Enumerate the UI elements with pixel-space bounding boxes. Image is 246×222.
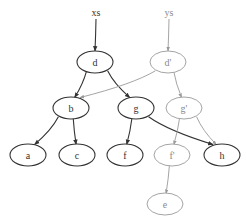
node-d: d bbox=[77, 51, 113, 73]
node-label: d bbox=[93, 57, 98, 68]
edge-b-to-c bbox=[73, 117, 76, 145]
root-label-ys: ys bbox=[165, 7, 174, 18]
node-label: a bbox=[26, 150, 31, 161]
node-e: e bbox=[147, 193, 183, 215]
node-label: b bbox=[69, 103, 74, 114]
node-label: g' bbox=[181, 103, 188, 114]
persistent-tree-diagram: dd'bgg'acff'he xsys bbox=[0, 0, 246, 222]
edge-b-to-a bbox=[34, 117, 58, 145]
node-label: e bbox=[163, 199, 168, 210]
node-label: h bbox=[220, 150, 225, 161]
node-c: c bbox=[59, 144, 95, 166]
root-labels-layer: xsys bbox=[92, 7, 174, 18]
node-g: g bbox=[118, 97, 154, 119]
edge-g-to-f bbox=[127, 117, 132, 145]
edge-d-to-b bbox=[75, 71, 87, 98]
edge-d2-to-g2 bbox=[174, 71, 182, 98]
edge-d2-to-b bbox=[80, 71, 155, 98]
nodes-layer: dd'bgg'acff'he bbox=[10, 51, 240, 215]
edge-g-to-h bbox=[149, 117, 213, 145]
node-g2: g' bbox=[166, 97, 202, 119]
node-h: h bbox=[204, 144, 240, 166]
node-label: c bbox=[75, 150, 80, 161]
node-d2: d' bbox=[150, 51, 186, 73]
node-label: d' bbox=[165, 57, 172, 68]
root-label-xs: xs bbox=[92, 7, 101, 18]
node-a: a bbox=[10, 144, 46, 166]
edge-xs-to-d bbox=[95, 19, 96, 51]
edge-ys-to-d2 bbox=[168, 19, 169, 51]
node-b: b bbox=[53, 97, 89, 119]
edge-f2-to-e bbox=[166, 164, 170, 194]
node-f: f bbox=[107, 144, 143, 166]
node-f2: f' bbox=[154, 144, 190, 166]
node-label: f' bbox=[169, 150, 174, 161]
node-label: g bbox=[134, 103, 139, 114]
